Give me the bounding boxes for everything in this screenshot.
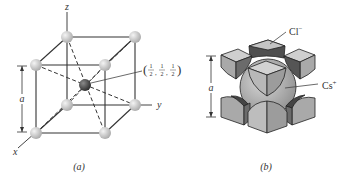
z-axis-label: z [64, 1, 69, 12]
cl-anion-label: Cl− [289, 25, 302, 37]
svg-text:2: 2 [161, 71, 164, 77]
svg-text:): ) [177, 62, 181, 77]
cscl-structure-figure: a ( 1 2 , 1 2 , 1 [0, 0, 352, 183]
cl-leader-line [270, 32, 286, 44]
svg-text:,: , [166, 69, 168, 77]
caption-b: (b) [260, 161, 272, 173]
body-center-coordinates: ( 1 2 , 1 2 , 1 2 ) [143, 62, 181, 77]
svg-text:1: 1 [161, 63, 164, 69]
cs-cation-label: Cs+ [322, 79, 337, 91]
svg-text:2: 2 [150, 71, 153, 77]
x-axis-label: x [12, 146, 18, 157]
caption-a: (a) [73, 161, 85, 173]
figure-b-cscl-unit-cell: a [206, 25, 337, 173]
dimension-label-a-b: a [209, 82, 214, 93]
body-center-atom [79, 79, 91, 91]
svg-text:1: 1 [172, 63, 175, 69]
dimension-label-a: a [20, 93, 25, 104]
corner-ion-front-bottom [248, 101, 287, 133]
dimension-a-marker: a [17, 66, 27, 132]
y-axis-label: y [156, 99, 162, 110]
svg-text:2: 2 [172, 71, 175, 77]
svg-text:,: , [155, 69, 157, 77]
corner-ion-back-top [249, 40, 285, 58]
dimension-a-marker-b: a [206, 56, 216, 117]
svg-text:(: ( [143, 62, 147, 77]
svg-text:1: 1 [150, 63, 153, 69]
figure-a-bcc-lattice: a ( 1 2 , 1 2 , 1 [12, 1, 181, 173]
